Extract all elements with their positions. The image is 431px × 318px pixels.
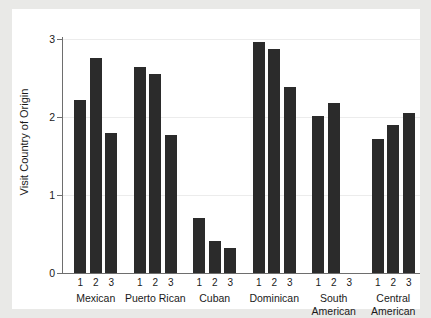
y-axis-tick-mark xyxy=(57,117,62,118)
bar xyxy=(372,139,384,273)
bar xyxy=(74,100,86,273)
x-axis-group-label-central-american: CentralAmerican xyxy=(347,292,431,317)
bar xyxy=(90,58,102,273)
y-axis-tick-mark xyxy=(57,273,62,274)
bar xyxy=(387,125,399,273)
y-axis-tick-label: 3 xyxy=(49,33,55,45)
y-axis-tick-2: 2 xyxy=(40,111,62,123)
group-label-line-1: South xyxy=(320,292,347,304)
y-axis-tick-1: 1 xyxy=(40,189,62,201)
bar xyxy=(105,133,117,273)
group-label-line-1: Cuban xyxy=(199,292,230,304)
x-axis-tick-label: 3 xyxy=(221,277,239,289)
bar xyxy=(224,248,236,273)
bar xyxy=(328,103,340,273)
bar xyxy=(193,218,205,273)
x-axis-tick-label: 3 xyxy=(281,277,299,289)
y-axis-tick-mark xyxy=(57,195,62,196)
y-axis-tick-label: 2 xyxy=(49,111,55,123)
bars-plot-area xyxy=(63,27,420,273)
bar xyxy=(253,42,265,273)
bar xyxy=(134,67,146,273)
x-axis-tick-label: 3 xyxy=(400,277,418,289)
x-axis-tick-label: 3 xyxy=(162,277,180,289)
y-axis-title: Visit Country of Origin xyxy=(17,12,31,272)
plot-canvas: Visit Country of Origin 0123 12312312312… xyxy=(12,9,420,309)
bar xyxy=(209,241,221,273)
y-axis-tick-0: 0 xyxy=(40,267,62,279)
y-axis-tick-3: 3 xyxy=(40,33,62,45)
bar xyxy=(165,135,177,273)
bar xyxy=(312,116,324,273)
y-axis-tick-mark xyxy=(57,39,62,40)
bar xyxy=(149,74,161,273)
y-axis-tick-label: 1 xyxy=(49,189,55,201)
x-axis-line xyxy=(62,273,420,274)
x-axis-tick-label: 3 xyxy=(340,277,358,289)
y-axis-tick-label: 0 xyxy=(49,267,55,279)
bar xyxy=(284,87,296,273)
x-axis-tick-label: 3 xyxy=(102,277,120,289)
bar xyxy=(268,49,280,273)
bar xyxy=(403,113,415,273)
group-label-line-2: American xyxy=(347,305,431,318)
bar-chart-figure: Visit Country of Origin 0123 12312312312… xyxy=(0,0,431,318)
group-label-line-1: Central xyxy=(376,292,410,304)
